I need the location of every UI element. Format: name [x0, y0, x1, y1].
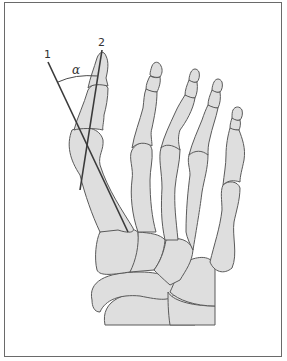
- tarsal-bones: [91, 228, 215, 326]
- metatarsal-5: [210, 182, 240, 272]
- toe3-middle: [185, 80, 197, 98]
- foot-skeleton-diagram: 1 2 α: [0, 0, 287, 361]
- toe5-proximal: [223, 128, 245, 185]
- hallux-distal-phalanx: [88, 52, 108, 88]
- label-line-1: 1: [44, 48, 51, 61]
- metatarsal-4: [186, 148, 208, 250]
- toe2-distal: [150, 62, 162, 77]
- label-line-2: 2: [98, 36, 105, 49]
- metatarsal-2: [131, 143, 156, 233]
- toe4-proximal: [189, 105, 218, 155]
- toe2-proximal: [132, 89, 157, 148]
- metatarsal-3: [160, 142, 180, 240]
- toe3-proximal: [161, 95, 195, 150]
- axis-lines: [48, 50, 128, 232]
- metatarsal-1: [69, 128, 133, 232]
- toe4-middle: [208, 90, 220, 108]
- label-angle-alpha: α: [72, 63, 80, 77]
